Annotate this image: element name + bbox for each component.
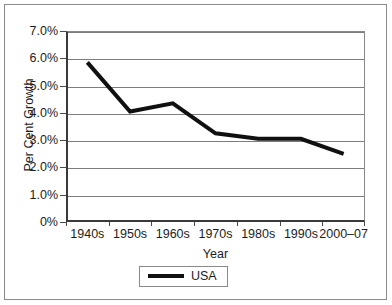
x-axis-tick — [237, 222, 238, 226]
x-axis-tick — [151, 222, 152, 226]
x-axis-tick-label: 1950s — [113, 228, 147, 241]
series-usa-line — [66, 31, 365, 222]
x-axis-tick-label: 1960s — [156, 228, 190, 241]
x-axis-tick-label: 1990s — [284, 228, 318, 241]
legend: USA — [139, 266, 228, 287]
y-axis-tick-label: 0% — [0, 216, 58, 229]
x-axis-title: Year — [66, 247, 365, 261]
x-axis-tick — [66, 222, 67, 226]
x-axis-tick-label: 2000–07 — [319, 228, 368, 241]
legend-swatch-usa — [148, 274, 184, 278]
y-axis-tick-label: 7.0% — [0, 25, 58, 38]
x-axis-tick — [194, 222, 195, 226]
legend-label-usa: USA — [191, 270, 217, 283]
x-axis-tick-label: 1970s — [198, 228, 232, 241]
x-axis-tick-label: 1980s — [241, 228, 275, 241]
x-axis-tick — [280, 222, 281, 226]
x-axis-tick-label: 1940s — [70, 228, 104, 241]
x-axis-tick-labels: 1940s1950s1960s1970s1980s1990s2000–07 — [66, 228, 365, 246]
y-axis-title: Per Cent Growth — [22, 50, 36, 200]
x-axis-tick — [322, 222, 323, 226]
x-axis-tick — [364, 222, 365, 226]
chart-figure: 0%1.0%2.0%3.0%4.0%5.0%6.0%7.0% Per Cent … — [0, 0, 392, 305]
x-axis-tick — [109, 222, 110, 226]
